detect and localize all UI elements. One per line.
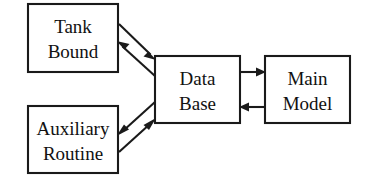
edge-data-base-to-main-model bbox=[240, 68, 266, 77]
node-data-base-label-line1: Data bbox=[180, 68, 216, 89]
edge-data-base-to-tank-bound bbox=[117, 41, 156, 76]
node-main-model[interactable]: Main Model bbox=[265, 56, 350, 123]
node-data-base-label-line2: Base bbox=[179, 93, 216, 114]
block-flow-diagram: Tank Bound Auxiliary Routine Data Base M… bbox=[0, 0, 373, 187]
node-data-base[interactable]: Data Base bbox=[155, 56, 240, 123]
edge-data-base-to-auxiliary-routine bbox=[117, 102, 156, 136]
diagram-canvas: Tank Bound Auxiliary Routine Data Base M… bbox=[0, 0, 373, 187]
node-auxiliary-routine-label-line1: Auxiliary bbox=[37, 118, 110, 139]
edge-tank-bound-to-data-base bbox=[119, 24, 156, 60]
edge-auxiliary-routine-to-data-base bbox=[119, 118, 156, 152]
node-auxiliary-routine[interactable]: Auxiliary Routine bbox=[28, 106, 118, 173]
node-tank-bound-label-line1: Tank bbox=[54, 16, 92, 37]
node-main-model-label-line2: Model bbox=[283, 93, 333, 114]
node-main-model-label-line1: Main bbox=[287, 68, 328, 89]
node-auxiliary-routine-label-line2: Routine bbox=[43, 143, 103, 164]
node-tank-bound[interactable]: Tank Bound bbox=[28, 4, 118, 72]
node-tank-bound-label-line2: Bound bbox=[48, 41, 99, 62]
edge-main-model-to-data-base bbox=[239, 103, 265, 112]
